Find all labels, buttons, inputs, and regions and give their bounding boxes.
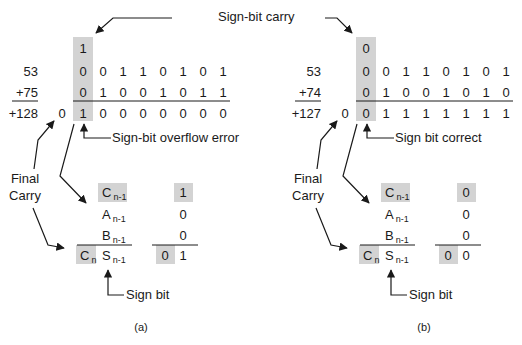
operand1-bit: 0 (159, 64, 166, 79)
operand1-bit: 0 (482, 64, 489, 79)
operand1-bit: 1 (219, 64, 226, 79)
result-bit: 0 (179, 106, 186, 121)
operand2-bit: 1 (99, 85, 106, 100)
final-carry-label-line2: Carry (292, 188, 324, 203)
operand1-bit: 1 (462, 64, 469, 79)
sign-carry-bit: 0 (362, 41, 369, 56)
carry-in-arrow (343, 124, 369, 203)
sign-bit-label: Sign bit (409, 287, 453, 302)
sign-note: Sign-bit overflow error (112, 130, 240, 145)
result-label: +127 (292, 106, 321, 121)
sign-bit-label: Sign bit (126, 287, 170, 302)
operand1-bit: 1 (502, 64, 509, 79)
s-term-symbol: S (385, 248, 394, 263)
operand1-bit: 1 (402, 64, 409, 79)
final-carry-arrow-up (317, 121, 337, 169)
sign-carry-bit: 1 (79, 41, 86, 56)
sign-note-arrow (367, 124, 394, 138)
cn-term-subscript: n (374, 255, 379, 265)
operand2-bit: 0 (139, 85, 146, 100)
operand2-bit: 0 (502, 85, 509, 100)
c-prev-term-subscript: n-1 (396, 192, 409, 202)
result-bit: 1 (422, 106, 429, 121)
operand1-bit: 0 (199, 64, 206, 79)
cn-value: 0 (444, 248, 451, 263)
panel-b: 053+74+1270001101010100101001111111Sign … (292, 37, 513, 333)
result-bit: 0 (362, 106, 369, 121)
sign-bit-carry-arrow-left (96, 18, 172, 33)
b-term-symbol: B (385, 228, 394, 243)
a-term: An-1 (102, 207, 126, 224)
sign-bit-carry-label: Sign-bit carry (218, 9, 295, 24)
result-bit: 1 (79, 106, 86, 121)
a-term-subscript: n-1 (396, 214, 409, 224)
sign-bit-carry-arrow-right (325, 18, 352, 33)
operand2-label: +75 (16, 85, 38, 100)
cn-term-subscript: n (91, 255, 96, 265)
operand2-bit: 0 (79, 85, 86, 100)
c-prev-value: 0 (462, 185, 469, 200)
operand2-bit: 0 (402, 85, 409, 100)
operand1-bit: 1 (119, 64, 126, 79)
b-term-subscript: n-1 (113, 235, 126, 245)
a-term-symbol: A (102, 207, 111, 222)
final-carry-label-line1: Final (11, 171, 39, 186)
final-carry-arrow-up (34, 121, 54, 169)
panel-caption: (a) (134, 321, 147, 333)
operand2-bit: 0 (119, 85, 126, 100)
operand1-label: 53 (307, 64, 321, 79)
operand1-bit: 0 (79, 64, 86, 79)
result-bit: 0 (159, 106, 166, 121)
s-value: 1 (179, 248, 186, 263)
operand1-bit: 1 (422, 64, 429, 79)
result-bit: 0 (219, 106, 226, 121)
result-bit: 1 (382, 106, 389, 121)
final-carry-bit: 0 (58, 106, 65, 121)
s-value: 0 (462, 248, 469, 263)
operand2-bit: 0 (462, 85, 469, 100)
operand2-label: +74 (299, 85, 321, 100)
operand2-bit: 1 (199, 85, 206, 100)
operand2-bit: 1 (442, 85, 449, 100)
result-bit: 1 (482, 106, 489, 121)
result-label: +128 (9, 106, 38, 121)
result-bit: 1 (462, 106, 469, 121)
b-term: Bn-1 (102, 228, 126, 245)
s-term: Sn-1 (385, 248, 409, 265)
operand1-label: 53 (24, 64, 38, 79)
result-bit: 1 (502, 106, 509, 121)
operand2-bit: 0 (422, 85, 429, 100)
panel-caption: (b) (417, 321, 430, 333)
b-value: 0 (179, 228, 186, 243)
result-bit: 1 (442, 106, 449, 121)
operand1-bit: 0 (442, 64, 449, 79)
operand2-bit: 0 (362, 85, 369, 100)
final-carry-arrow-down (33, 208, 64, 248)
final-carry-label-line1: Final (294, 171, 322, 186)
result-bit: 1 (402, 106, 409, 121)
a-term-subscript: n-1 (113, 214, 126, 224)
final-carry-bit: 0 (341, 106, 348, 121)
b-value: 0 (462, 228, 469, 243)
operand1-bit: 0 (382, 64, 389, 79)
operand1-bit: 0 (99, 64, 106, 79)
s-term: Sn-1 (102, 248, 126, 265)
b-term-symbol: B (102, 228, 111, 243)
carry-in-arrow (60, 124, 86, 203)
c-prev-term-subscript: n-1 (113, 192, 126, 202)
a-term: An-1 (385, 207, 409, 224)
a-term-symbol: A (385, 207, 394, 222)
c-prev-term-symbol: C (102, 185, 111, 200)
operand1-bit: 1 (139, 64, 146, 79)
s-term-subscript: n-1 (396, 255, 409, 265)
operand2-bit: 1 (482, 85, 489, 100)
panel-a: 153+75+1280001101010100101110000000Sign-… (9, 37, 240, 333)
result-bit: 0 (139, 106, 146, 121)
cn-term-symbol: C (363, 248, 372, 263)
final-carry-label-line2: Carry (9, 188, 41, 203)
result-bit: 0 (119, 106, 126, 121)
sign-bit-arrow (391, 270, 407, 295)
operand2-bit: 1 (219, 85, 226, 100)
s-term-subscript: n-1 (113, 255, 126, 265)
sign-bit-arrow (108, 270, 124, 295)
